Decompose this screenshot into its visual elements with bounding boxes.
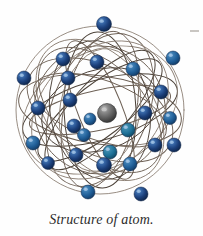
- electron-highlight: [157, 88, 161, 91]
- electron-highlight: [106, 148, 110, 151]
- electron-highlight: [29, 139, 33, 142]
- electron: [31, 101, 45, 115]
- electron-highlight: [44, 159, 48, 162]
- electron-highlight: [141, 109, 145, 112]
- electron: [63, 93, 77, 107]
- atom-figure: Structure of atom.: [0, 0, 203, 236]
- electron-highlight: [126, 160, 130, 163]
- electron-highlight: [59, 55, 63, 58]
- electron-highlight: [169, 54, 173, 57]
- nucleus: [98, 104, 117, 123]
- electron-highlight: [70, 122, 74, 125]
- electron: [126, 62, 140, 76]
- electron-highlight: [166, 114, 170, 117]
- figure-caption: Structure of atom.: [0, 211, 203, 229]
- electron-highlight: [93, 58, 97, 61]
- electron-highlight: [34, 104, 38, 107]
- electron: [164, 112, 177, 125]
- electron: [90, 55, 104, 69]
- electron: [81, 185, 95, 199]
- electron-highlight: [72, 151, 76, 154]
- electron: [123, 157, 137, 171]
- electron-highlight: [137, 190, 141, 193]
- electron-highlight: [129, 65, 133, 68]
- electron: [26, 136, 40, 150]
- electron: [42, 157, 55, 170]
- electron-highlight: [151, 141, 155, 144]
- electron: [78, 129, 91, 142]
- electron: [97, 17, 112, 32]
- electron: [134, 187, 148, 201]
- electron-highlight: [66, 96, 70, 99]
- corner-mark-icon: [190, 30, 199, 32]
- electron-highlight: [86, 115, 90, 118]
- electron-highlight: [99, 161, 104, 164]
- electron-highlight: [80, 131, 84, 134]
- electron: [69, 148, 83, 162]
- electron-highlight: [84, 188, 88, 191]
- electron: [121, 123, 135, 137]
- electron-highlight: [99, 20, 104, 23]
- atom-diagram: [0, 0, 203, 210]
- electron: [56, 52, 70, 66]
- electron: [84, 113, 96, 125]
- electron-highlight: [170, 141, 174, 144]
- electron: [103, 145, 117, 159]
- electron: [138, 106, 152, 120]
- electron: [167, 138, 181, 152]
- electron: [148, 138, 162, 152]
- electron: [61, 71, 75, 85]
- nucleus-sphere: [98, 104, 117, 123]
- electron: [97, 158, 112, 173]
- electron: [166, 51, 180, 65]
- electron: [154, 85, 168, 99]
- electron-highlight: [124, 126, 128, 129]
- electron: [17, 71, 31, 85]
- electron-highlight: [20, 74, 24, 77]
- nucleus-highlight: [101, 107, 106, 111]
- electron-highlight: [64, 74, 68, 77]
